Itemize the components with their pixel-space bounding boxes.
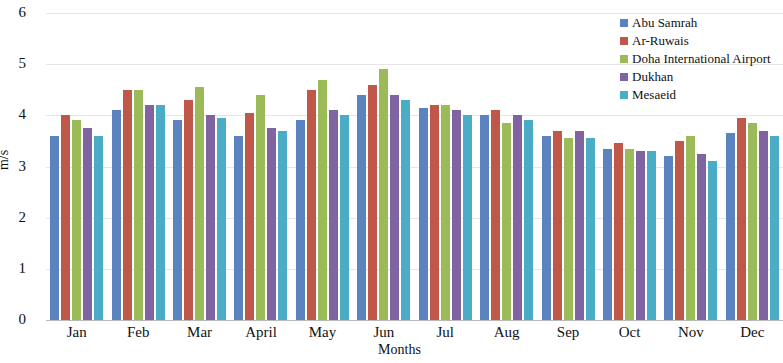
bar[interactable]: [480, 115, 489, 320]
legend: Abu SamrahAr-RuwaisDoha International Ai…: [620, 14, 783, 104]
wind-speed-bar-chart: m/s 0123456 JanFebMarAprilMayJunJulAugSe…: [0, 0, 783, 363]
bar[interactable]: [234, 136, 243, 320]
bar[interactable]: [770, 136, 779, 320]
x-axis: JanFebMarAprilMayJunJulAugSepOctNovDec: [46, 322, 783, 344]
bar[interactable]: [664, 156, 673, 320]
bar[interactable]: [748, 123, 757, 320]
bar[interactable]: [737, 118, 746, 320]
bar[interactable]: [686, 136, 695, 320]
bar[interactable]: [463, 115, 472, 320]
legend-swatch-icon: [620, 55, 628, 63]
bar-group: [46, 13, 107, 320]
axis-baseline: [46, 320, 783, 321]
bar[interactable]: [83, 128, 92, 320]
bar[interactable]: [390, 95, 399, 320]
bar[interactable]: [307, 90, 316, 320]
bar[interactable]: [647, 151, 656, 320]
x-tick-label: Feb: [107, 322, 168, 344]
x-axis-title-text: Months: [378, 342, 421, 358]
bar[interactable]: [430, 105, 439, 320]
bar-group: [537, 13, 598, 320]
bar[interactable]: [603, 149, 612, 320]
bar[interactable]: [419, 108, 428, 320]
bar[interactable]: [134, 90, 143, 320]
bar[interactable]: [340, 115, 349, 320]
bar[interactable]: [636, 151, 645, 320]
bar[interactable]: [502, 123, 511, 320]
bar[interactable]: [278, 131, 287, 320]
legend-label: Dukhan: [632, 70, 673, 83]
bar[interactable]: [318, 80, 327, 320]
bar[interactable]: [575, 131, 584, 320]
bar[interactable]: [329, 110, 338, 320]
bar[interactable]: [245, 113, 254, 320]
bar-group: [476, 13, 537, 320]
bar[interactable]: [195, 87, 204, 320]
bar[interactable]: [50, 136, 59, 320]
bar[interactable]: [156, 105, 165, 320]
bar[interactable]: [441, 105, 450, 320]
bar[interactable]: [625, 149, 634, 320]
legend-item[interactable]: Ar-Ruwais: [620, 32, 783, 49]
bar-group: [415, 13, 476, 320]
bar[interactable]: [542, 136, 551, 320]
x-tick-label: Aug: [476, 322, 537, 344]
legend-item[interactable]: Doha International Airport: [620, 50, 783, 67]
bar-group: [353, 13, 414, 320]
y-tick-label: 4: [19, 107, 27, 122]
bar[interactable]: [184, 100, 193, 320]
x-axis-title: Months: [46, 342, 783, 358]
bar[interactable]: [256, 95, 265, 320]
bar[interactable]: [379, 69, 388, 320]
bar[interactable]: [173, 120, 182, 320]
legend-item[interactable]: Abu Samrah: [620, 14, 783, 31]
bar-group: [292, 13, 353, 320]
y-tick-label: 2: [19, 210, 27, 225]
legend-item[interactable]: Dukhan: [620, 68, 783, 85]
bar[interactable]: [726, 133, 735, 320]
x-tick-label: Mar: [169, 322, 230, 344]
legend-swatch-icon: [620, 91, 628, 99]
bar[interactable]: [296, 120, 305, 320]
bar[interactable]: [123, 90, 132, 320]
bar[interactable]: [524, 120, 533, 320]
x-tick-label: Sep: [537, 322, 598, 344]
bar[interactable]: [553, 131, 562, 320]
bar[interactable]: [401, 100, 410, 320]
x-tick-label: Oct: [599, 322, 660, 344]
bar[interactable]: [759, 131, 768, 320]
legend-item[interactable]: Mesaeid: [620, 86, 783, 103]
bar[interactable]: [513, 115, 522, 320]
bar[interactable]: [614, 143, 623, 320]
bar[interactable]: [564, 138, 573, 320]
legend-swatch-icon: [620, 19, 628, 27]
bar[interactable]: [72, 120, 81, 320]
y-tick-label: 1: [19, 261, 27, 276]
bar[interactable]: [708, 161, 717, 320]
x-tick-label: Jun: [353, 322, 414, 344]
bar[interactable]: [61, 115, 70, 320]
legend-swatch-icon: [620, 73, 628, 81]
bar[interactable]: [675, 141, 684, 320]
y-tick-label: 0: [19, 312, 27, 327]
bar[interactable]: [368, 85, 377, 320]
bar[interactable]: [206, 115, 215, 320]
bar-group: [107, 13, 168, 320]
y-axis-title: m/s: [0, 150, 12, 170]
bar[interactable]: [267, 128, 276, 320]
x-tick-label: Jul: [415, 322, 476, 344]
legend-label: Ar-Ruwais: [632, 34, 689, 47]
bar[interactable]: [112, 110, 121, 320]
bar[interactable]: [217, 118, 226, 320]
bar[interactable]: [145, 105, 154, 320]
legend-swatch-icon: [620, 37, 628, 45]
x-tick-label: Nov: [660, 322, 721, 344]
bar[interactable]: [452, 110, 461, 320]
bar[interactable]: [586, 138, 595, 320]
bar[interactable]: [697, 154, 706, 320]
bar[interactable]: [357, 95, 366, 320]
bar[interactable]: [491, 110, 500, 320]
x-tick-label: April: [230, 322, 291, 344]
y-axis: m/s 0123456: [0, 0, 46, 363]
bar[interactable]: [94, 136, 103, 320]
